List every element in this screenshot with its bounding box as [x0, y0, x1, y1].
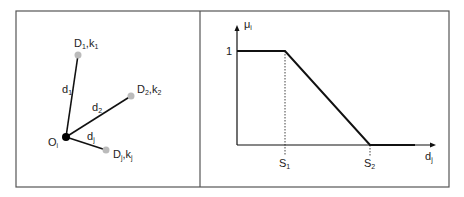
x-axis-arrow-icon [430, 143, 436, 148]
node-dj-label: Dj,kj [113, 148, 133, 162]
origin-node [62, 133, 70, 141]
s1-label: S1 [279, 157, 290, 170]
edge-d1-label: d1 [62, 83, 72, 96]
edge-d2 [66, 96, 131, 137]
node-d2-label: D2,k2 [137, 83, 161, 96]
x-axis-label: dj [425, 150, 433, 164]
diagram-canvas: D1,k1 D2,k2 Dj,kj d1 d2 dj Oi 1 μi dj S1… [0, 0, 464, 197]
left-panel: D1,k1 D2,k2 Dj,kj d1 d2 dj Oi [48, 37, 161, 162]
edge-dj-label: dj [87, 130, 95, 144]
s2-label: S2 [364, 157, 375, 170]
node-d2 [128, 93, 135, 100]
node-dj [103, 147, 110, 154]
y-tick-1: 1 [226, 45, 232, 57]
y-axis-label: μi [244, 18, 252, 31]
edge-d1 [66, 55, 78, 137]
origin-label: Oi [48, 136, 59, 149]
node-d1 [75, 52, 82, 59]
y-axis-arrow-icon [235, 25, 240, 31]
membership-curve [237, 51, 415, 145]
edge-d2-label: d2 [92, 101, 102, 114]
node-d1-label: D1,k1 [74, 37, 98, 50]
right-panel: 1 μi dj S1 S2 [226, 18, 436, 170]
edge-dj [66, 137, 106, 150]
